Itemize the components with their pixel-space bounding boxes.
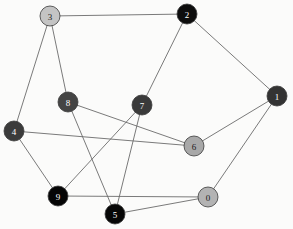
graph-node[interactable]: 8 <box>58 92 78 112</box>
graph-canvas: 0123456789 <box>0 0 293 229</box>
graph-node[interactable]: 2 <box>177 4 197 24</box>
graph-edge <box>142 14 187 105</box>
node-layer: 0123456789 <box>4 4 287 224</box>
graph-edge <box>14 131 58 196</box>
graph-node-circle[interactable] <box>48 186 68 206</box>
graph-edge <box>50 14 187 16</box>
graph-node[interactable]: 1 <box>267 86 287 106</box>
graph-edge <box>68 102 115 214</box>
graph-edge <box>194 96 277 146</box>
graph-edge <box>58 105 142 196</box>
graph-node[interactable]: 3 <box>40 6 60 26</box>
graph-node-circle[interactable] <box>132 95 152 115</box>
graph-node[interactable]: 0 <box>198 187 218 207</box>
graph-node-circle[interactable] <box>4 121 24 141</box>
graph-node-circle[interactable] <box>105 204 125 224</box>
graph-edge <box>58 196 208 197</box>
graph-node[interactable]: 5 <box>105 204 125 224</box>
graph-edge <box>115 197 208 214</box>
graph-node[interactable]: 7 <box>132 95 152 115</box>
graph-node-circle[interactable] <box>267 86 287 106</box>
graph-edge <box>187 14 277 96</box>
graph-node-circle[interactable] <box>198 187 218 207</box>
graph-edge <box>14 131 194 146</box>
graph-edge <box>50 16 68 102</box>
graph-edge <box>68 102 194 146</box>
graph-node-circle[interactable] <box>184 136 204 156</box>
graph-edge <box>14 16 50 131</box>
graph-node[interactable]: 4 <box>4 121 24 141</box>
graph-node-circle[interactable] <box>40 6 60 26</box>
graph-node[interactable]: 9 <box>48 186 68 206</box>
graph-edge <box>208 96 277 197</box>
graph-node-circle[interactable] <box>177 4 197 24</box>
graph-figure: 0123456789 <box>0 0 293 229</box>
graph-node-circle[interactable] <box>58 92 78 112</box>
graph-node[interactable]: 6 <box>184 136 204 156</box>
graph-edge <box>115 105 142 214</box>
